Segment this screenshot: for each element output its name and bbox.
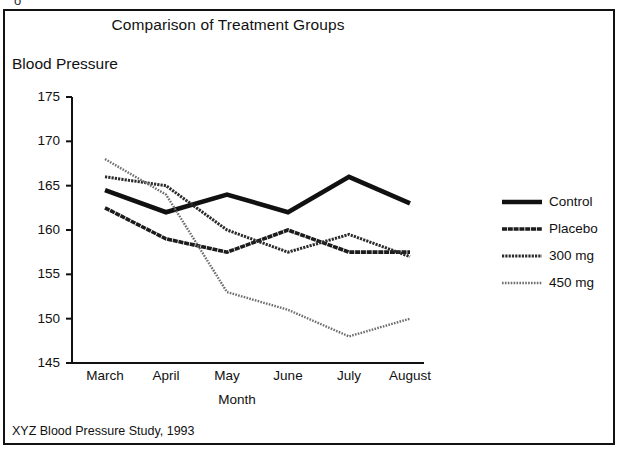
x-tick-label: August	[389, 369, 431, 383]
legend-label: Control	[549, 194, 593, 209]
x-tick-label: April	[152, 369, 179, 383]
data-series-group	[105, 159, 410, 336]
legend-item-placebo[interactable]: Placebo	[502, 215, 614, 242]
legend-swatch-icon	[502, 222, 542, 236]
legend-label: Placebo	[549, 221, 598, 236]
legend-swatch-icon	[502, 249, 542, 263]
legend-item-450-mg[interactable]: 450 mg	[502, 269, 614, 296]
y-tick-label: 160	[22, 223, 60, 237]
axes	[66, 97, 424, 363]
x-tick-label: March	[86, 369, 124, 383]
x-tick-label: July	[337, 369, 361, 383]
footer-note: XYZ Blood Pressure Study, 1993	[12, 424, 195, 438]
chart-screenshot: o Comparison of Treatment Groups Blood P…	[0, 0, 619, 454]
y-tick-label: 165	[22, 179, 60, 193]
series-line-placebo	[105, 208, 410, 252]
y-tick-label: 145	[22, 356, 60, 370]
y-tick-label: 155	[22, 267, 60, 281]
legend-label: 300 mg	[549, 248, 594, 263]
y-tick-label: 175	[22, 90, 60, 104]
x-tick-label: June	[273, 369, 302, 383]
legend-label: 450 mg	[549, 275, 594, 290]
legend-item-300-mg[interactable]: 300 mg	[502, 242, 614, 269]
y-tick-label: 150	[22, 312, 60, 326]
x-tick-label: May	[214, 369, 240, 383]
y-tick-label: 170	[22, 134, 60, 148]
series-line-control	[105, 177, 410, 212]
chart-legend: ControlPlacebo300 mg450 mg	[502, 188, 614, 296]
legend-item-control[interactable]: Control	[502, 188, 614, 215]
legend-swatch-icon	[502, 276, 542, 290]
legend-swatch-icon	[502, 195, 542, 209]
x-axis-title: Month	[62, 392, 412, 407]
series-line-300-mg	[105, 177, 410, 257]
